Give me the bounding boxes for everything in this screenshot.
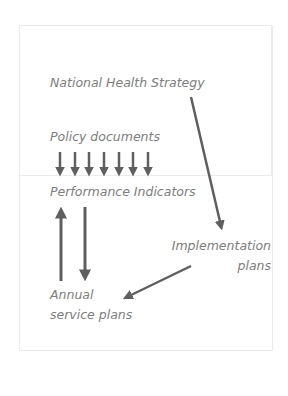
arrow-strategy-to-implementation: [191, 97, 221, 226]
node-performance-indicators: Performance Indicators: [50, 184, 196, 199]
arrow-implementation-to-annual: [127, 266, 191, 297]
node-annual-service-plans-line1: Annual: [50, 287, 93, 302]
node-policy-documents: Policy documents: [50, 129, 160, 144]
node-implementation-plans-line2: plans: [237, 258, 271, 273]
node-implementation-plans-line1: Implementation: [172, 238, 271, 253]
node-annual-service-plans-line2: service plans: [50, 307, 132, 322]
arrow-group-policy-to-indicators: [60, 152, 148, 172]
node-national-health-strategy: National Health Strategy: [50, 75, 205, 90]
frame-top-border: [20, 26, 272, 176]
